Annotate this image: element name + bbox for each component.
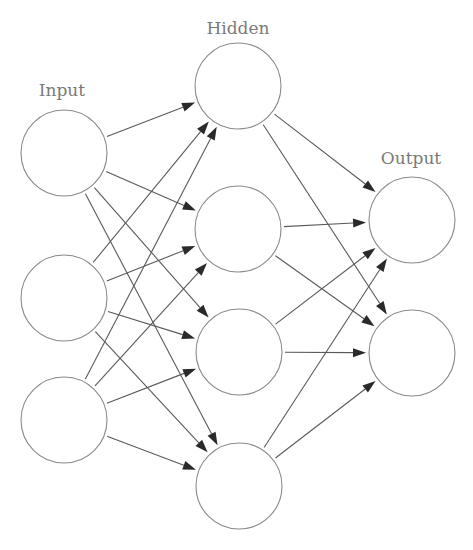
hidden-neuron-2 — [195, 186, 281, 272]
connection-line — [106, 171, 184, 205]
connection-line — [95, 273, 198, 386]
neurons-group — [21, 43, 455, 529]
arrowhead-icon — [181, 103, 195, 112]
hidden-neuron-3 — [196, 309, 282, 395]
input-neuron-2 — [21, 255, 107, 341]
edge-i3-to-h3 — [107, 369, 196, 404]
connection-line — [275, 389, 365, 458]
connection-line — [107, 373, 184, 403]
output-neuron-1 — [369, 177, 455, 263]
arrowhead-icon — [361, 315, 374, 326]
edge-i1-to-h1 — [107, 103, 195, 137]
arrowhead-icon — [207, 127, 217, 141]
connection-line — [107, 436, 184, 465]
edge-i1-to-h2 — [106, 171, 196, 210]
hidden-neuron-4 — [196, 443, 282, 529]
arrowhead-icon — [208, 432, 218, 446]
edge-i2-to-h3 — [108, 312, 195, 339]
connection-line — [93, 132, 200, 263]
connection-line — [275, 256, 363, 319]
connection-line — [263, 125, 380, 304]
connection-line — [284, 223, 353, 227]
edge-i2-to-h4 — [95, 332, 207, 453]
edge-h4-to-o2 — [275, 381, 375, 458]
connection-line — [276, 256, 366, 324]
connection-line — [274, 114, 365, 184]
arrowhead-icon — [376, 301, 387, 314]
connection-line — [107, 107, 183, 136]
edge-h2-to-o2 — [275, 256, 374, 327]
input-neuron-1 — [21, 110, 107, 196]
arrowhead-icon — [181, 330, 195, 339]
arrowhead-icon — [362, 248, 375, 259]
arrowhead-icon — [182, 369, 196, 378]
arrowhead-icon — [353, 219, 366, 228]
arrowhead-icon — [362, 381, 375, 392]
neural-network-diagram: Input Hidden Output — [0, 0, 473, 550]
output-layer-label: Output — [381, 148, 442, 168]
arrowhead-icon — [182, 461, 196, 470]
arrowhead-icon — [353, 348, 366, 357]
edge-i3-to-h2 — [95, 263, 207, 386]
edge-h3-to-o1 — [276, 248, 376, 324]
arrowhead-icon — [376, 259, 387, 272]
edge-i3-to-h4 — [107, 436, 196, 470]
edge-i2-to-h1 — [93, 122, 209, 263]
input-layer-label: Input — [39, 80, 85, 100]
hidden-layer-label: Hidden — [206, 18, 269, 38]
edge-h1-to-o1 — [274, 114, 375, 192]
arrowhead-icon — [363, 180, 376, 191]
connection-line — [85, 138, 210, 379]
hidden-neuron-1 — [195, 43, 281, 129]
arrowhead-icon — [197, 122, 209, 135]
output-neuron-2 — [369, 310, 455, 396]
connections-group — [85, 103, 387, 470]
input-neuron-3 — [21, 377, 107, 463]
arrowhead-icon — [182, 201, 196, 210]
arrowhead-icon — [182, 246, 196, 255]
